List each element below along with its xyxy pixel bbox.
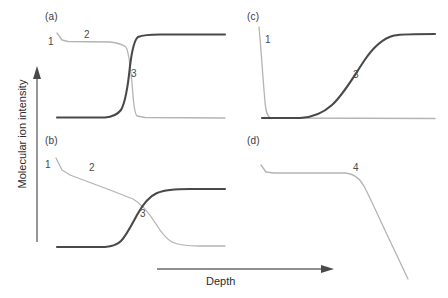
panel-d-curve-4: [261, 165, 408, 279]
panel-b-label-1: 1: [45, 159, 51, 170]
panel-a-label-1: 1: [48, 36, 54, 47]
panel-label-b: (b): [45, 135, 58, 146]
panel-b-label-2: 2: [89, 162, 95, 173]
figure-canvas: (a) (b) (c) (d) 1 2 3 1 2 3 1 3 4 Molecu…: [0, 0, 448, 298]
panel-c-label-1: 1: [265, 34, 271, 45]
panel-a-label-2: 2: [84, 29, 90, 40]
panel-label-d: (d): [247, 135, 260, 146]
panel-d-label-4: 4: [353, 162, 359, 173]
panel-a-label-3: 3: [131, 68, 137, 79]
panel-d-curves: [0, 0, 448, 298]
panel-b-label-3: 3: [140, 208, 146, 219]
panel-label-c: (c): [247, 11, 259, 22]
panel-c-label-3: 3: [353, 69, 359, 80]
panel-label-a: (a): [45, 11, 58, 22]
x-axis-title: Depth: [206, 275, 235, 287]
y-axis-title: Molecular ion intensity: [16, 79, 28, 189]
